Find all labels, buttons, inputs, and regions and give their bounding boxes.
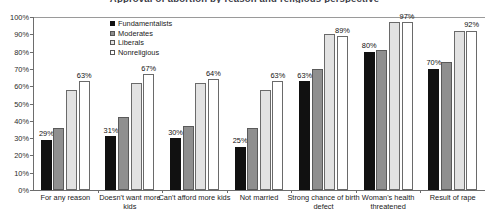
legend-label: Moderates (118, 29, 153, 38)
bar-liberals (324, 34, 335, 190)
legend: FundamentalistsModeratesLiberalsNonrelig… (110, 19, 206, 57)
bar-nonreligious (466, 31, 477, 190)
bar-liberals (389, 22, 400, 190)
bar-value-label: 63% (69, 71, 99, 80)
bar-chart: Approval of abortion by reason and relig… (0, 0, 489, 221)
y-axis-tick-label: 50% (0, 99, 29, 108)
y-axis-tick-label: 40% (0, 116, 29, 125)
chart-title: Approval of abortion by reason and relig… (0, 0, 489, 3)
bar-fundamentalists (299, 81, 310, 190)
x-axis-category-label: For any reason (29, 194, 102, 203)
bar-moderates (118, 117, 129, 190)
x-axis-category-label: Doesn't want more kids (94, 194, 167, 211)
legend-label: Fundamentalists (118, 19, 172, 28)
bar-moderates (441, 62, 452, 190)
bar-group: 80%97% (356, 17, 421, 190)
bar-fundamentalists (105, 136, 116, 190)
bar-fundamentalists (364, 52, 375, 190)
x-axis-line (33, 190, 485, 191)
legend-item: Fundamentalists (110, 19, 206, 29)
legend-item: Nonreligious (110, 48, 206, 58)
y-axis-tick-label: 100% (0, 13, 29, 22)
bar-group: 29%63% (33, 17, 98, 190)
legend-item: Moderates (110, 29, 206, 39)
bar-moderates (312, 69, 323, 190)
bar-fundamentalists (235, 147, 246, 190)
y-axis-tick-label: 80% (0, 47, 29, 56)
bar-moderates (247, 128, 258, 190)
bar-nonreligious (402, 22, 413, 190)
bar-nonreligious (272, 81, 283, 190)
x-axis-category-label: Not married (223, 194, 296, 203)
bar-fundamentalists (428, 69, 439, 190)
x-axis-category-label: Strong chance of birth defect (287, 194, 360, 211)
bar-value-label: 80% (354, 41, 384, 50)
bar-value-label: 97% (392, 12, 422, 21)
bar-liberals (195, 83, 206, 190)
bar-nonreligious (208, 79, 219, 190)
legend-label: Nonreligious (118, 48, 159, 57)
bar-value-label: 63% (263, 71, 293, 80)
bar-moderates (183, 126, 194, 190)
legend-swatch-icon (110, 21, 115, 26)
legend-item: Liberals (110, 38, 206, 48)
legend-swatch-icon (110, 40, 115, 45)
bar-moderates (53, 128, 64, 190)
bar-fundamentalists (170, 138, 181, 190)
bar-fundamentalists (41, 140, 52, 190)
legend-swatch-icon (110, 31, 115, 36)
x-axis-category-label: Result of rape (416, 194, 489, 203)
bar-nonreligious (79, 81, 90, 190)
y-axis-tick-label: 90% (0, 30, 29, 39)
bar-liberals (260, 90, 271, 190)
y-axis-tick-label: 20% (0, 151, 29, 160)
y-axis-tick-label: 70% (0, 64, 29, 73)
bar-moderates (376, 50, 387, 190)
bar-group: 63%89% (291, 17, 356, 190)
bar-group: 25%63% (227, 17, 292, 190)
x-axis-tick-mark (420, 190, 421, 193)
legend-swatch-icon (110, 50, 115, 55)
bar-value-label: 67% (134, 64, 164, 73)
y-axis-tick-label: 60% (0, 82, 29, 91)
x-axis-category-label: Can't afford more kids (158, 194, 231, 203)
legend-label: Liberals (118, 38, 144, 47)
bar-value-label: 92% (457, 20, 487, 29)
bar-group: 70%92% (420, 17, 485, 190)
y-axis-tick-label: 0% (0, 186, 29, 195)
bar-value-label: 64% (198, 69, 228, 78)
bar-liberals (454, 31, 465, 190)
plot-area: 29%63%31%67%30%64%25%63%63%89%80%97%70%9… (33, 17, 485, 190)
bar-value-label: 89% (327, 26, 357, 35)
y-axis-tick-label: 10% (0, 168, 29, 177)
y-axis-tick-label: 30% (0, 134, 29, 143)
bar-liberals (131, 83, 142, 190)
bar-nonreligious (143, 74, 154, 190)
bar-liberals (66, 90, 77, 190)
x-axis-category-label: Woman's health threatened (352, 194, 425, 211)
bar-nonreligious (337, 36, 348, 190)
